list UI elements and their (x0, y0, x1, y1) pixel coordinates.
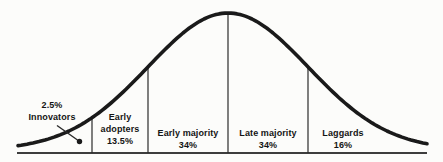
segment-name: Early adopters (92, 111, 148, 135)
bell-curve-path (18, 13, 427, 146)
callout-dot (77, 139, 82, 144)
adoption-bell-curve-figure: 2.5% Innovators Early adopters 13.5% Ear… (0, 0, 443, 162)
callout-percent: 2.5% (18, 100, 86, 112)
segment-label-early-majority: Early majority 34% (148, 127, 228, 151)
callout-name: Innovators (18, 112, 86, 124)
segment-name: Early majority (148, 127, 228, 139)
segment-percent: 34% (228, 139, 308, 151)
segment-label-early-adopters: Early adopters 13.5% (92, 111, 148, 147)
segment-percent: 16% (308, 139, 378, 151)
callout-label-innovators: 2.5% Innovators (18, 100, 86, 123)
segment-name: Late majority (228, 127, 308, 139)
segment-label-late-majority: Late majority 34% (228, 127, 308, 151)
segment-percent: 34% (148, 139, 228, 151)
segment-label-laggards: Laggards 16% (308, 127, 378, 151)
segment-percent: 13.5% (92, 135, 148, 147)
segment-name: Laggards (308, 127, 378, 139)
